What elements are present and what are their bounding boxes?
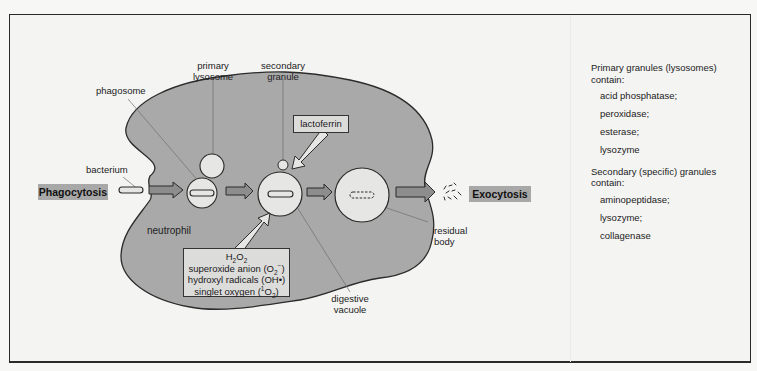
legend-item: peroxidase; — [591, 108, 741, 120]
bacterium-in-vacuole — [268, 191, 293, 197]
bacterium-label: bacterium — [86, 165, 128, 176]
legend-item: collagenase — [591, 230, 741, 242]
legend-item: acid phosphatase; — [591, 90, 741, 102]
exocytosis-tag: Exocytosis — [469, 186, 531, 202]
digestive-vacuole-label-line1: digestive — [328, 294, 372, 305]
oxidant-singlet-oxygen: singlet oxygen (1O2) — [184, 286, 289, 298]
granule-legend: Primary granules (lysosomes) contain: ac… — [591, 62, 741, 248]
neutrophil-label: neutrophil — [147, 226, 191, 237]
primary-granules-heading: Primary granules (lysosomes) contain: — [591, 62, 741, 85]
legend-item: lysozyme — [591, 144, 741, 156]
secondary-granule-label: secondary granule — [258, 61, 308, 82]
oxidant-superoxide: superoxide anion (O2−) — [184, 263, 289, 275]
secondary-granule-shape — [278, 160, 288, 170]
bacterium-in-phagosome — [190, 190, 214, 196]
bacterium-shape — [119, 187, 143, 193]
digestive-vacuole-label: digestive vacuole — [328, 294, 372, 315]
phagocytosis-tag: Phagocytosis — [38, 184, 108, 200]
legend-item: aminopeptidase; — [591, 194, 741, 206]
legend-item: esterase; — [591, 126, 741, 138]
legend-item: lysozyme; — [591, 212, 741, 224]
residual-body-label-line1: residual — [434, 226, 467, 237]
phagosome-label: phagosome — [96, 86, 146, 97]
secondary-granules-heading: Secondary (specific) granules contain: — [591, 166, 741, 189]
primary-lysosome-shape — [200, 154, 224, 178]
primary-lysosome-label: primary lysosome — [193, 61, 233, 82]
oxidant-hydrogen-peroxide: H2O2 — [184, 251, 289, 263]
oxidants-box: H2O2 superoxide anion (O2−) hydroxyl rad… — [183, 248, 290, 297]
expelled-fragments — [444, 183, 461, 200]
primary-lysosome-label-line1: primary — [193, 61, 233, 72]
secondary-granule-label-line1: secondary — [258, 61, 308, 72]
oxidant-hydroxyl: hydroxyl radicals (OH•) — [184, 274, 289, 286]
digestive-vacuole-label-line2: vacuole — [328, 305, 372, 316]
residual-body-label: residual body — [434, 226, 467, 247]
residual-body-label-line2: body — [434, 237, 467, 248]
lactoferrin-box: lactoferrin — [293, 115, 349, 133]
residual-body-shape — [335, 168, 389, 222]
primary-lysosome-label-line2: lysosome — [193, 72, 233, 83]
secondary-granule-label-line2: granule — [258, 72, 308, 83]
